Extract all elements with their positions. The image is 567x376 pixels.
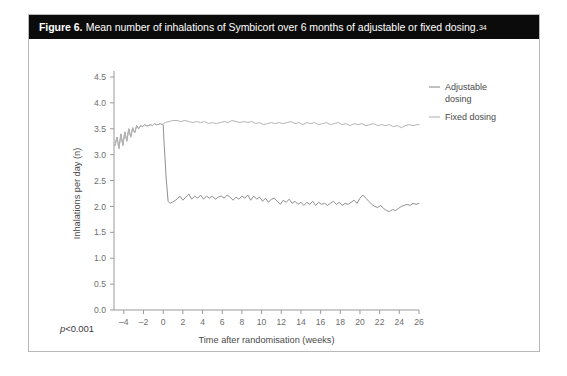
legend-label-line2: dosing: [445, 94, 472, 104]
x-axis-tick-label: 22: [375, 317, 385, 327]
y-axis-tick-label: 3.5: [94, 124, 106, 134]
figure-caption-text: Mean number of inhalations of Symbicort …: [86, 21, 479, 33]
x-axis-tick-label: 24: [395, 317, 405, 327]
x-axis-title: Time after randomisation (weeks): [199, 335, 335, 345]
x-axis-tick-label: 20: [355, 317, 365, 327]
y-axis-tick-label: 1.0: [94, 253, 106, 263]
x-axis-tick-label: 10: [257, 317, 267, 327]
y-axis-title: Inhalations per day (n): [72, 148, 82, 239]
x-axis-tick-label: 16: [316, 317, 326, 327]
legend-label: Adjustable: [445, 82, 487, 92]
x-axis-tick-label: 2: [180, 317, 185, 327]
y-axis-tick-label: 4.0: [94, 98, 106, 108]
y-axis-tick-label: 4.5: [94, 72, 106, 82]
figure-number-label: Figure 6.: [39, 21, 82, 33]
x-axis-tick-label: 4: [200, 317, 205, 327]
series-line-fixed-dosing: [115, 120, 419, 148]
p-value-rest: <0.001: [65, 323, 94, 334]
x-axis-tick-label: 26: [414, 317, 424, 327]
y-axis-tick-label: 1.5: [94, 227, 106, 237]
chart-plot-area: 0.00.51.01.52.02.53.03.54.04.5–4–2024681…: [29, 39, 539, 352]
legend-label: Fixed dosing: [445, 112, 496, 122]
figure-title-bar: Figure 6. Mean number of inhalations of …: [29, 15, 539, 39]
figure-reference-superscript: 34: [479, 24, 487, 31]
series-line-adjustable-dosing: [115, 124, 419, 212]
x-axis-tick-label: 0: [161, 317, 166, 327]
x-axis-tick-label: 12: [276, 317, 286, 327]
y-axis-tick-label: 2.0: [94, 202, 106, 212]
y-axis-tick-label: 2.5: [94, 176, 106, 186]
p-value-annotation: p<0.001: [60, 323, 94, 334]
y-axis-tick-label: 3.0: [94, 150, 106, 160]
x-axis-tick-label: –4: [119, 317, 129, 327]
x-axis-tick-label: –2: [139, 317, 149, 327]
y-axis-tick-label: 0.5: [94, 279, 106, 289]
x-axis-tick-label: 6: [220, 317, 225, 327]
y-axis-tick-label: 0.0: [94, 305, 106, 315]
x-axis-tick-label: 14: [296, 317, 306, 327]
figure-container: Figure 6. Mean number of inhalations of …: [28, 14, 540, 352]
x-axis-tick-label: 18: [336, 317, 346, 327]
x-axis-tick-label: 8: [240, 317, 245, 327]
